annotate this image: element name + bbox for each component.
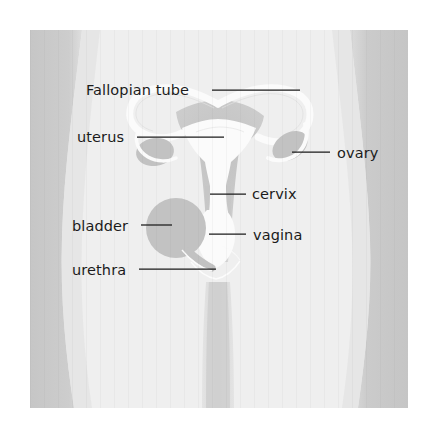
- cervix: [209, 186, 228, 212]
- anatomy-illustration: Fallopian tube uterus ovary cervix bladd…: [0, 0, 434, 446]
- label-uterus-text: uterus: [77, 129, 124, 145]
- label-ovary-text: ovary: [337, 145, 379, 161]
- label-vagina-text: vagina: [253, 227, 302, 243]
- label-cervix-text: cervix: [252, 186, 297, 202]
- label-urethra-text: urethra: [72, 262, 126, 278]
- anatomy-diagram: Fallopian tube uterus ovary cervix bladd…: [0, 0, 434, 446]
- bladder: [146, 198, 206, 258]
- label-fallopian-tube-text: Fallopian tube: [86, 82, 189, 98]
- label-bladder-text: bladder: [72, 218, 128, 234]
